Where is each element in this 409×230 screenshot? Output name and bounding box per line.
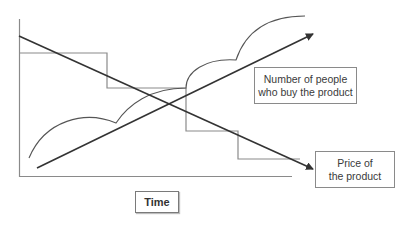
- buyers-label-box: Number of people who buy the product: [254, 67, 357, 104]
- price-label-line-1: Price of: [337, 157, 373, 170]
- time-axis-label-box: Time: [135, 191, 179, 213]
- price-label-box: Price of the product: [315, 151, 395, 188]
- price-label-line-2: the product: [329, 170, 382, 183]
- diagram-canvas: [0, 0, 409, 230]
- buyers-label-line-2: who buy the product: [258, 86, 353, 99]
- time-axis-label: Time: [144, 196, 169, 209]
- buyers-label-line-1: Number of people: [264, 73, 347, 86]
